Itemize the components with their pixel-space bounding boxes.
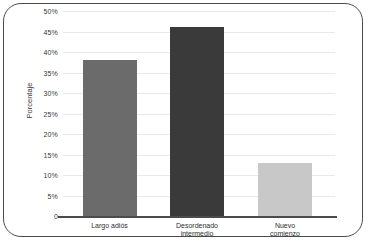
x-axis-baseline xyxy=(58,216,337,218)
bar xyxy=(83,60,137,216)
y-axis-tick-label: 25% xyxy=(43,110,58,117)
bar xyxy=(170,27,224,216)
y-axis-tick-label: 35% xyxy=(43,69,58,76)
x-axis-category-label: Desordenado intermedio xyxy=(152,222,242,239)
gridline xyxy=(63,11,335,12)
x-axis-category-label: Largo adiós xyxy=(65,222,155,230)
y-axis-title: Porcentaje xyxy=(25,66,34,136)
chart-screenshot: 05%10%15%20%25%30%35%40%45%50% Porcentaj… xyxy=(0,0,371,246)
bar xyxy=(258,163,312,216)
y-axis-tick-label: 5% xyxy=(47,192,58,199)
y-axis-tick-label: 10% xyxy=(43,172,58,179)
y-axis-tick-label: 20% xyxy=(43,131,58,138)
y-axis-tick-label: 30% xyxy=(43,90,58,97)
y-axis-tick-label: 45% xyxy=(43,28,58,35)
y-axis-tick-label: 40% xyxy=(43,49,58,56)
y-axis-tick-label: 50% xyxy=(43,8,58,15)
x-axis-category-label: Nuevo comienzo xyxy=(240,222,330,239)
plot-area xyxy=(63,11,335,216)
y-axis-tick-label: 15% xyxy=(43,151,58,158)
